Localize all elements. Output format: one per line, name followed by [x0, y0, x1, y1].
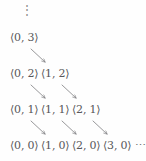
pair-item: ⟨0, 2⟩ [10, 67, 41, 80]
pair-item: ⟨1, 1⟩ [41, 103, 72, 116]
pair-item: ⟨0, 3⟩ [10, 31, 41, 44]
successor-arrow [31, 49, 45, 62]
diagram-row-3: ⟨0, 3⟩ [10, 31, 41, 44]
pair-item: ⟨2, 0⟩ [72, 139, 103, 152]
pair-enumeration-diagram: ⋮ ⟨0, 3⟩ ⟨0, 2⟩ ⟨1, 2⟩ ⟨0, 1⟩ ⟨1, 1⟩ ⟨2,… [0, 0, 146, 161]
pair-item: ⟨1, 2⟩ [41, 67, 72, 80]
pair-item: ⟨1, 0⟩ [41, 139, 72, 152]
pair-item: ⟨3, 0⟩ [103, 139, 134, 152]
horizontal-ellipsis: ⋯ [134, 139, 146, 152]
successor-arrow [31, 121, 45, 134]
diagram-row-0: ⟨0, 0⟩ ⟨1, 0⟩ ⟨2, 0⟩ ⟨3, 0⟩ ⋯ [10, 139, 146, 152]
pair-item: ⟨0, 1⟩ [10, 103, 41, 116]
successor-arrow [93, 121, 107, 134]
diagram-row-1: ⟨0, 1⟩ ⟨1, 1⟩ ⟨2, 1⟩ [10, 103, 103, 116]
pair-item: ⟨2, 1⟩ [72, 103, 103, 116]
pair-item: ⟨0, 0⟩ [10, 139, 41, 152]
arrow-layer [0, 0, 146, 161]
successor-arrow [62, 85, 76, 98]
vertical-ellipsis: ⋮ [21, 4, 33, 16]
diagram-row-2: ⟨0, 2⟩ ⟨1, 2⟩ [10, 67, 72, 80]
successor-arrow [31, 85, 45, 98]
successor-arrow [62, 121, 76, 134]
